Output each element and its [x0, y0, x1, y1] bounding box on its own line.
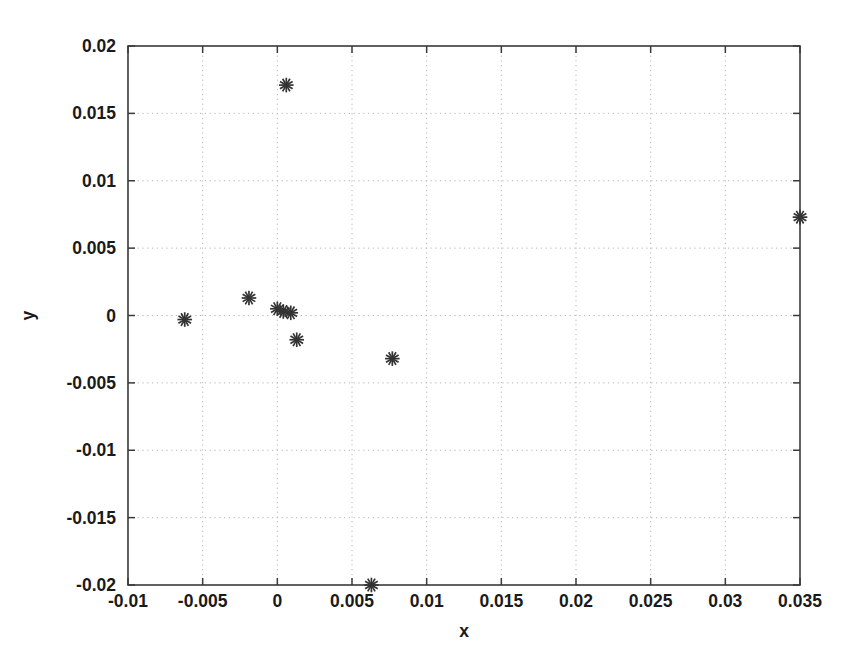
x-tick-label: 0.025 — [629, 591, 673, 611]
y-tick-label: 0.005 — [72, 238, 116, 258]
y-tick-label: 0 — [106, 306, 116, 326]
figure-container: -0.01-0.00500.0050.010.0150.020.0250.030… — [0, 0, 856, 658]
x-tick-label: 0.01 — [410, 591, 444, 611]
x-tick-label: 0.03 — [708, 591, 742, 611]
y-tick-label: -0.015 — [66, 508, 116, 528]
x-tick-label: 0.035 — [778, 591, 822, 611]
y-tick-label: -0.01 — [76, 440, 116, 460]
y-tick-label: 0.015 — [72, 103, 116, 123]
y-axis-title: y — [18, 310, 38, 320]
y-tick-label: 0.02 — [82, 36, 116, 56]
y-tick-label: -0.02 — [76, 575, 116, 595]
x-tick-label: 0.005 — [330, 591, 374, 611]
x-axis-title: x — [459, 621, 469, 641]
x-tick-label: 0.015 — [479, 591, 523, 611]
scatter-plot: -0.01-0.00500.0050.010.0150.020.0250.030… — [0, 0, 856, 658]
x-tick-label: 0 — [272, 591, 282, 611]
y-tick-label: -0.005 — [66, 373, 116, 393]
y-tick-label: 0.01 — [82, 171, 116, 191]
x-tick-label: -0.005 — [178, 591, 228, 611]
x-tick-label: 0.02 — [559, 591, 593, 611]
